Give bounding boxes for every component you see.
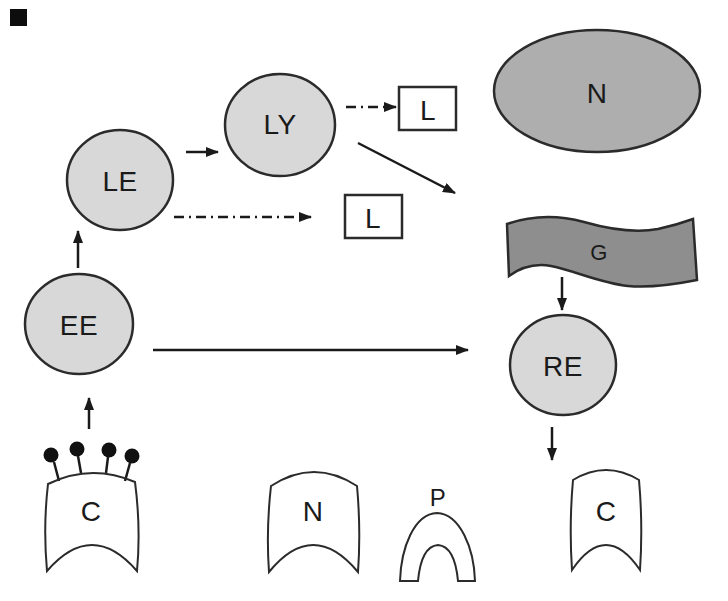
receptor-pin-head <box>70 442 85 457</box>
membrane-p-label: P <box>430 484 447 511</box>
receptor-pin-stem <box>78 456 81 473</box>
membrane-p-arch <box>400 513 475 581</box>
coated-pit-left-group: C <box>44 442 140 572</box>
lysosome-vesicle-label: LY <box>263 109 296 140</box>
receptor-pin-head <box>44 448 59 463</box>
nucleus-label: N <box>587 78 608 109</box>
diagram-canvas: N G LE LY EE RE L L C <box>0 0 728 601</box>
membrane-n-label: N <box>303 496 324 527</box>
receptor-pin-head <box>125 449 140 464</box>
trafficking-diagram-svg: N G LE LY EE RE L L C <box>0 0 728 601</box>
coated-pit-left-label: C <box>81 496 102 527</box>
receptor-pin-head <box>102 443 117 458</box>
l-box-bottom-label: L <box>365 203 381 234</box>
early-endosome-label: EE <box>60 310 98 341</box>
late-endosome-label: LE <box>102 166 137 197</box>
membrane-c-right-label: C <box>596 496 617 527</box>
arrow-ly-diagonal <box>358 143 455 193</box>
scan-artifact-square <box>10 9 27 26</box>
recycling-endosome-label: RE <box>543 351 583 382</box>
receptor-pin-stem <box>54 462 59 481</box>
receptor-pin-stem <box>106 457 108 473</box>
golgi-label: G <box>590 240 608 265</box>
l-box-top-label: L <box>420 95 436 126</box>
